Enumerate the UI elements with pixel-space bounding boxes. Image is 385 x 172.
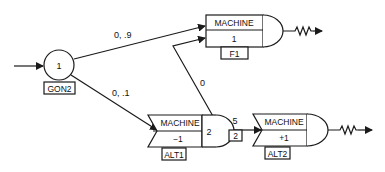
alt2-title: MACHINE: [264, 117, 304, 127]
edge-to-alt1-label: 0, .1: [112, 88, 130, 98]
edge-feedback: [173, 38, 214, 118]
alt2-label: ALT2: [268, 149, 288, 159]
alt1-number: 2: [206, 127, 211, 137]
edge-feedback-label: 0: [200, 78, 205, 88]
alt2-value: +1: [279, 133, 289, 143]
start-node-number: 1: [56, 61, 61, 71]
flow-diagram: 1 GON2 0, .9 0, .1 0 MACHINE 1 F1 MACHIN…: [0, 0, 385, 172]
alt1-value: −1: [173, 134, 183, 144]
edge-to-alt1: [71, 75, 157, 130]
alt2-output-zigzag: [328, 126, 358, 134]
edge-to-f1-label: 0, .9: [114, 30, 132, 40]
edge-alt1-to-alt2-box-label: 2: [233, 131, 238, 141]
alt1-title: MACHINE: [160, 118, 200, 128]
f1-title: MACHINE: [214, 18, 254, 28]
f1-value: 1: [232, 34, 237, 44]
alt1-label: ALT1: [164, 150, 184, 160]
f1-output-zigzag: [283, 27, 313, 35]
start-node-label: GON2: [47, 84, 71, 94]
edge-alt1-to-alt2-label: 5: [232, 116, 237, 126]
f1-label: F1: [230, 49, 240, 59]
